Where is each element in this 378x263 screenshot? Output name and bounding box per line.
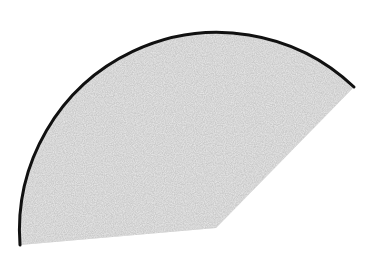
sector-fill (19, 32, 354, 245)
diagram-canvas (0, 0, 378, 263)
sector-diagram (0, 0, 378, 263)
